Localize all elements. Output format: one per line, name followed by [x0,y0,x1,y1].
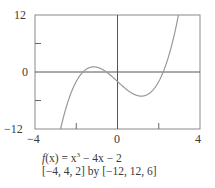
x-label-left: −4 [27,133,40,145]
y-label-bottom: −12 [4,123,23,135]
function-curve [60,0,182,133]
x-label-mid: 0 [114,133,120,145]
y-label-top: 12 [14,9,26,21]
x-label-right: 4 [195,133,201,145]
function-caption: f(x) = x3 − 4x − 2 [42,151,122,164]
window-caption: [−4, 4, 2] by [−12, 12, 6] [42,165,157,177]
y-label-mid: 0 [22,66,28,78]
